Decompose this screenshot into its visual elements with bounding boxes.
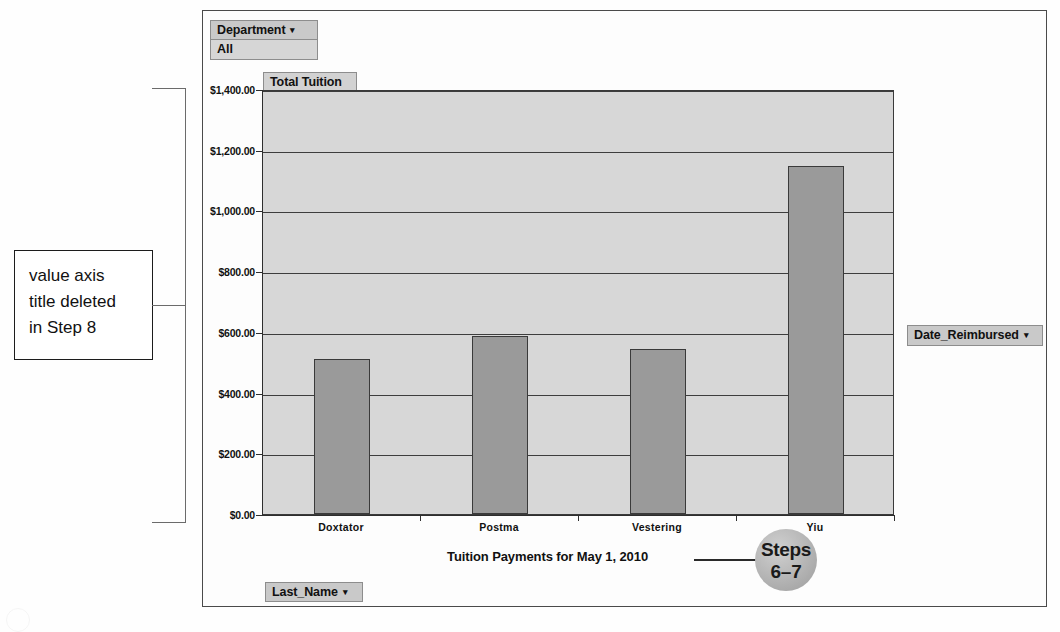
field-button-last-name-label: Last_Name	[272, 585, 338, 599]
bar-yiu[interactable]	[788, 166, 844, 514]
field-value-department-label: All	[217, 42, 233, 56]
field-button-last-name[interactable]: Last_Name▾	[265, 582, 363, 602]
callout-leader-line	[152, 305, 186, 306]
steps-badge-number: 6–7	[771, 562, 802, 581]
callout-value-axis-title: value axis title deleted in Step 8	[14, 250, 153, 360]
category-axis-tick-label: Vestering	[632, 521, 682, 533]
value-axis-tick-label: $800.00	[218, 266, 255, 278]
category-axis-tick-mark	[894, 515, 895, 521]
value-axis-tick-label: $1,000.00	[210, 205, 255, 217]
callout-line-2: title deleted	[29, 289, 152, 315]
category-axis-tick-label: Postma	[479, 521, 519, 533]
chevron-down-icon: ▾	[1024, 330, 1029, 340]
field-button-department[interactable]: Department▾	[210, 20, 318, 40]
gridline	[263, 152, 893, 153]
category-axis-tick-mark	[578, 515, 579, 521]
chevron-down-icon: ▾	[343, 587, 348, 597]
steps-leader-line	[694, 559, 756, 561]
category-axis-tick-mark	[736, 515, 737, 521]
field-button-date-reimbursed-label: Date_Reimbursed	[914, 328, 1019, 342]
field-button-department-label: Department	[217, 23, 285, 37]
field-button-total-tuition[interactable]: Total Tuition	[263, 72, 357, 92]
value-axis-tick-label: $600.00	[218, 327, 255, 339]
value-axis-tick-label: $200.00	[218, 448, 255, 460]
category-axis-tick-mark	[420, 515, 421, 521]
callout-line-1: value axis	[29, 263, 152, 289]
field-button-total-tuition-label: Total Tuition	[270, 75, 342, 89]
page-artifact	[6, 608, 30, 632]
value-axis-tick-label: $0.00	[230, 509, 255, 521]
bar-doxtator[interactable]	[314, 359, 370, 514]
bar-vestering[interactable]	[630, 349, 686, 514]
value-axis-tick-mark	[256, 211, 262, 212]
field-value-department[interactable]: All	[210, 40, 318, 60]
chevron-down-icon: ▾	[290, 25, 295, 35]
value-axis-tick-mark	[256, 333, 262, 334]
value-axis-tick-mark	[256, 151, 262, 152]
field-button-date-reimbursed[interactable]: Date_Reimbursed▾	[907, 325, 1043, 346]
value-axis-line	[262, 90, 263, 516]
chart-title: Tuition Payments for May 1, 2010	[447, 549, 648, 564]
plot-area	[262, 90, 894, 515]
value-axis-tick-label: $1,400.00	[210, 84, 255, 96]
bar-postma[interactable]	[472, 336, 528, 514]
value-axis-tick-label: $1,200.00	[210, 145, 255, 157]
gridline	[263, 91, 893, 92]
value-axis-tick-mark	[256, 272, 262, 273]
callout-line-3: in Step 8	[29, 315, 152, 341]
value-axis-tick-mark	[256, 394, 262, 395]
value-axis-tick-mark	[256, 515, 262, 516]
value-axis-tick-label: $400.00	[218, 388, 255, 400]
category-axis-tick-label: Doxtator	[318, 521, 364, 533]
value-axis-tick-mark	[256, 90, 262, 91]
steps-badge: Steps 6–7	[755, 529, 817, 591]
steps-badge-word: Steps	[761, 540, 811, 559]
value-axis-tick-mark	[256, 454, 262, 455]
category-axis-tick-label: Yiu	[807, 521, 824, 533]
